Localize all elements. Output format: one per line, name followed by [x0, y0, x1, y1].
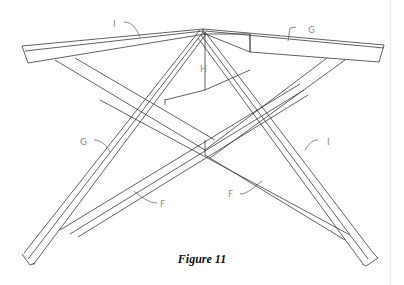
right-front-brace — [100, 100, 350, 240]
left-leg — [22, 30, 206, 265]
figure-caption: Figure 11 — [0, 252, 404, 267]
label-top-right-rail: G — [308, 25, 315, 35]
figure-page: I G H G I F F Figure 11 — [0, 0, 404, 285]
label-center-block: H — [200, 64, 207, 74]
label-top-left-rail: I — [113, 19, 116, 29]
sawhorse-assembly-drawing: I G H G I F F — [0, 0, 404, 285]
label-left-brace: F — [160, 199, 165, 209]
label-right-brace: F — [228, 189, 233, 199]
label-right-leg: I — [327, 137, 330, 147]
label-left-leg: G — [80, 137, 87, 147]
center-block — [165, 34, 250, 105]
right-leg — [198, 32, 378, 266]
rear-brace-left — [55, 58, 215, 150]
